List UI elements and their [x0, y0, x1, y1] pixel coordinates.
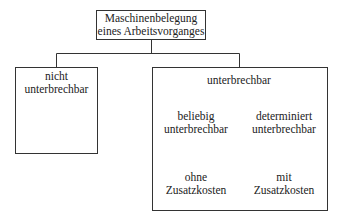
- node-unterbrechbar: unterbrechbar: [189, 74, 289, 87]
- node-ohne-line2: Zusatzkosten: [146, 184, 246, 197]
- node-ohne-line1: ohne: [146, 171, 246, 184]
- node-beliebig-line2: unterbrechbar: [146, 123, 246, 136]
- left-branch-label-line2: unterbrechbar: [15, 83, 98, 96]
- left-branch-label-line1: nicht: [15, 70, 98, 83]
- node-determiniert-line1: determiniert: [234, 110, 334, 123]
- root-node-label-line2: eines Arbeitsvorganges: [96, 25, 206, 38]
- node-determiniert-line2: unterbrechbar: [234, 123, 334, 136]
- root-node-label-line1: Maschinenbelegung: [96, 12, 206, 25]
- node-mit-line1: mit: [234, 171, 334, 184]
- node-mit-line2: Zusatzkosten: [234, 184, 334, 197]
- node-beliebig-line1: beliebig: [146, 110, 246, 123]
